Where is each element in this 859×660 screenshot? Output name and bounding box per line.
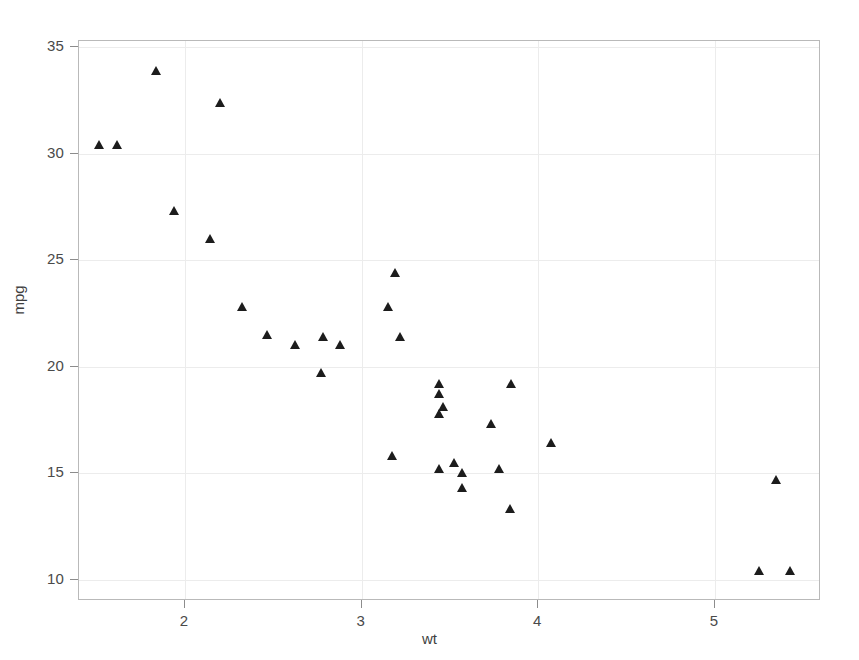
data-point — [151, 66, 161, 75]
data-point — [449, 458, 459, 467]
y-tick-mark — [70, 472, 78, 473]
data-point — [390, 268, 400, 277]
data-point — [169, 206, 179, 215]
x-tick-label: 3 — [341, 612, 381, 629]
data-point — [457, 468, 467, 477]
data-point — [457, 483, 467, 492]
data-point — [754, 566, 764, 575]
y-tick-label: 30 — [18, 144, 64, 161]
y-tick-mark — [70, 259, 78, 260]
data-point — [215, 98, 225, 107]
gridline-horizontal — [79, 473, 819, 474]
y-tick-label: 15 — [18, 463, 64, 480]
gridline-vertical — [538, 41, 539, 599]
gridline-vertical — [715, 41, 716, 599]
y-axis-label: mpg — [10, 285, 27, 314]
gridline-vertical — [362, 41, 363, 599]
x-axis-label: wt — [0, 630, 859, 647]
data-point — [506, 379, 516, 388]
data-point — [771, 475, 781, 484]
gridline-horizontal — [79, 260, 819, 261]
data-point — [434, 389, 444, 398]
data-point — [112, 140, 122, 149]
y-tick-label: 10 — [18, 570, 64, 587]
x-tick-mark — [361, 600, 362, 608]
gridline-horizontal — [79, 580, 819, 581]
data-point — [785, 566, 795, 575]
data-point — [486, 419, 496, 428]
scatter-plot-figure: 101520253035 2345 mpg wt — [0, 0, 859, 660]
data-point — [434, 409, 444, 418]
data-point — [316, 368, 326, 377]
y-tick-mark — [70, 579, 78, 580]
data-point — [94, 140, 104, 149]
data-point — [387, 451, 397, 460]
plot-area — [78, 40, 820, 600]
x-tick-label: 2 — [164, 612, 204, 629]
data-point — [434, 464, 444, 473]
data-point — [494, 464, 504, 473]
y-tick-label: 20 — [18, 357, 64, 374]
y-tick-mark — [70, 366, 78, 367]
gridline-horizontal — [79, 47, 819, 48]
data-point — [205, 234, 215, 243]
data-point — [262, 330, 272, 339]
gridline-horizontal — [79, 154, 819, 155]
data-point — [546, 438, 556, 447]
y-tick-mark — [70, 46, 78, 47]
data-point — [237, 302, 247, 311]
x-tick-label: 5 — [694, 612, 734, 629]
data-point — [434, 379, 444, 388]
y-tick-mark — [70, 153, 78, 154]
x-tick-mark — [714, 600, 715, 608]
data-point — [395, 332, 405, 341]
data-point — [335, 340, 345, 349]
x-tick-mark — [184, 600, 185, 608]
data-point — [383, 302, 393, 311]
data-point — [505, 504, 515, 513]
data-point — [318, 332, 328, 341]
x-tick-mark — [537, 600, 538, 608]
y-tick-label: 25 — [18, 250, 64, 267]
x-tick-label: 4 — [517, 612, 557, 629]
y-tick-label: 35 — [18, 37, 64, 54]
gridline-vertical — [185, 41, 186, 599]
data-point — [290, 340, 300, 349]
gridline-horizontal — [79, 367, 819, 368]
